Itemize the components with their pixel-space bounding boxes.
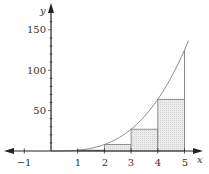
y-tick-labels: 150 100 50 <box>27 24 46 116</box>
riemann-rectangles <box>78 99 185 151</box>
x-tick-label: 4 <box>155 157 161 168</box>
riemann-rectangle <box>131 129 158 151</box>
riemann-rectangle <box>104 145 131 151</box>
x-tick-label: 2 <box>102 157 108 168</box>
chart-canvas: x y −1 1 2 3 4 5 150 100 50 <box>0 0 209 174</box>
x-tick-labels: −1 1 2 3 4 5 <box>17 157 189 168</box>
x-axis-arrow-left-icon <box>4 148 14 154</box>
x-tick-label: 3 <box>128 157 134 168</box>
y-axis-arrow-up-icon <box>48 3 54 13</box>
x-tick-label: 1 <box>75 157 81 168</box>
x-tick-label: −1 <box>17 157 32 168</box>
riemann-rectangle <box>158 99 185 151</box>
y-axis-label: y <box>39 5 46 16</box>
y-tick-label: 100 <box>27 65 46 76</box>
x-axis-label: x <box>197 154 203 165</box>
y-tick-label: 150 <box>27 24 46 35</box>
x-tick-label: 5 <box>182 157 188 168</box>
y-tick-label: 50 <box>33 105 46 116</box>
